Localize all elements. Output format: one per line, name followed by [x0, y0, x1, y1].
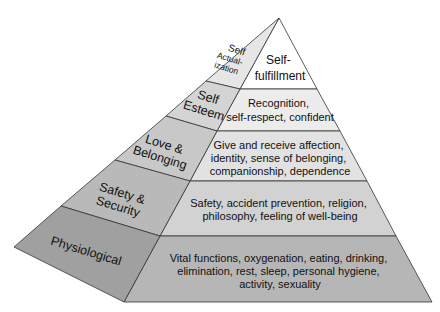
description-love-belonging: Give and receive affection, identity, se… [210, 139, 351, 177]
pyramid-diagram: Self Actual- ization Self Esteem Love & … [0, 0, 440, 312]
description-safety-security: Safety, accident prevention, religion, p… [190, 197, 370, 222]
